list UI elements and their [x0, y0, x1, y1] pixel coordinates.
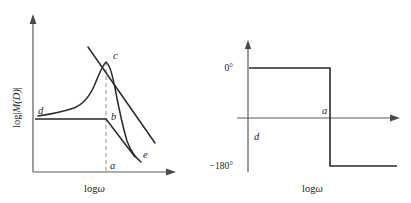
bode-plot-figure: log|M(D)| logω a b c d e 0° −180° logω: [0, 0, 411, 203]
right-label-d: d: [254, 131, 260, 142]
left-y-axis-arrowhead: [30, 14, 37, 24]
left-label-d: d: [38, 105, 44, 116]
left-label-b: b: [111, 111, 116, 122]
left-label-e: e: [143, 149, 148, 160]
left-x-axis-label: logω: [84, 183, 105, 194]
right-x-axis-label: logω: [302, 183, 323, 194]
left-label-c: c: [113, 50, 118, 61]
right-y-axis-arrowhead: [245, 40, 251, 49]
left-magnitude-curve: [38, 62, 141, 162]
left-high-frequency-asymptote-from-b: [106, 119, 135, 157]
right-label-a: a: [322, 105, 327, 116]
figure-canvas: log|M(D)| logω a b c d e 0° −180° logω: [0, 0, 411, 203]
left-label-a: a: [110, 160, 115, 171]
right-x-axis-arrowhead: [390, 115, 400, 122]
left-plot-magnitude: log|M(D)| logω a b c d e: [11, 14, 176, 194]
right-ytick-0deg: 0°: [224, 63, 233, 73]
left-x-axis-arrowhead: [166, 169, 176, 176]
right-phase-step-curve: [249, 68, 397, 166]
right-ytick-minus180deg: −180°: [210, 161, 234, 171]
left-tangent-asymptote-through-c: [88, 47, 155, 143]
left-y-axis-label: log|M(D)|: [11, 87, 23, 128]
right-plot-phase: 0° −180° logω a d: [210, 40, 400, 194]
